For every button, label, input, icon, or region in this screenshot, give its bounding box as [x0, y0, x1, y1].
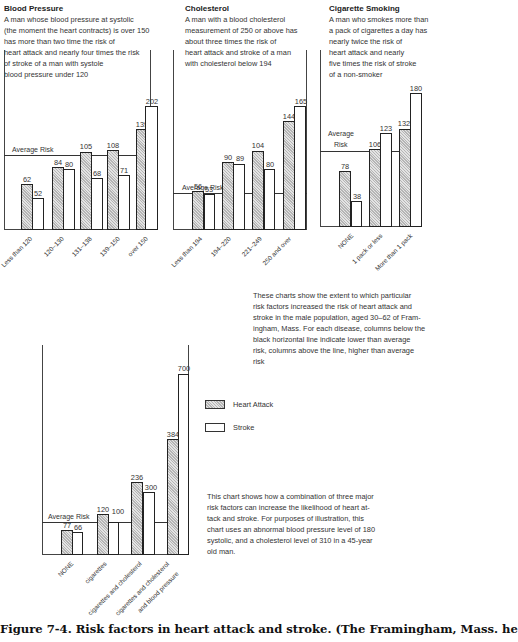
- cig-value: 180: [404, 84, 428, 93]
- note-line: This chart shows how a combination of th…: [207, 491, 435, 502]
- bp-x-label: Less than 120: [0, 235, 33, 268]
- chol-bar-stroke: [204, 194, 215, 230]
- cig-bar-stroke: [351, 201, 362, 227]
- bp-value: 71: [112, 166, 136, 175]
- bp-bar-stroke: [91, 178, 103, 230]
- cig-bar-stroke: [380, 133, 392, 227]
- cig-desc-line: nearly twice the risk of: [329, 36, 435, 47]
- chol-title: Cholesterol: [185, 4, 229, 13]
- cig-value: 78: [333, 162, 357, 171]
- bp-bar-stroke: [32, 198, 44, 230]
- bp-desc-line: has more than two time the risk of: [4, 36, 164, 47]
- chol-desc-line: A man with a blood cholesterol: [185, 14, 310, 25]
- bp-value: 202: [140, 97, 164, 106]
- chol-bar-stroke: [294, 106, 306, 230]
- note-line: old man.: [207, 546, 435, 557]
- combo-bar-stroke: [108, 522, 119, 555]
- chol-bar-stroke: [233, 164, 245, 230]
- combo-x-label: NONE: [56, 560, 74, 578]
- cig-desc-line: A man who smokes more than: [329, 14, 435, 25]
- bp-bar-stroke: [145, 106, 158, 230]
- bp-value: 108: [101, 141, 125, 150]
- chol-desc-line: about three times the risk of: [185, 36, 310, 47]
- combo-value: 700: [172, 364, 196, 373]
- cig-value: 38: [345, 192, 369, 201]
- note-line: chart uses an abnormal blood pressure le…: [207, 524, 435, 535]
- note-line: ingham, Mass. For each disease, columns …: [253, 323, 435, 334]
- legend-swatch-heart-attack: [205, 400, 225, 409]
- chol-bar-stroke: [264, 169, 275, 230]
- chol-desc-line: measurement of 250 or above has: [185, 25, 310, 36]
- bp-bar-stroke: [63, 169, 75, 230]
- combo-value: 100: [106, 507, 130, 516]
- legend-label-heart-attack: Heart Attack: [233, 400, 273, 409]
- chol-value: 80: [258, 160, 282, 169]
- combo-value: 300: [139, 483, 163, 492]
- cig-average-label: Risk: [334, 141, 348, 148]
- chol-value: 89: [228, 154, 252, 163]
- chol-value: 53: [197, 185, 221, 194]
- bp-x-label: 131–138: [70, 235, 93, 258]
- note-line: systolic, and a cholesterol level of 310…: [207, 535, 435, 546]
- bp-bar-stroke: [118, 175, 130, 230]
- overview-note: These charts show the extent to which pa…: [253, 290, 435, 367]
- bp-value: 80: [57, 160, 81, 169]
- chol-x-label: 250 and over: [261, 235, 292, 266]
- combination-note: This chart shows how a combination of th…: [207, 491, 435, 557]
- bp-value: 105: [74, 142, 98, 151]
- legend-swatch-stroke: [205, 423, 225, 432]
- note-line: risk factors can increase the likelihood…: [207, 502, 435, 513]
- chol-x-label: 221–249: [240, 235, 263, 258]
- chol-bar-heart-attack: [192, 191, 204, 230]
- combo-bar-heart-attack: [131, 482, 143, 555]
- bp-x-label: 120–130: [42, 235, 65, 258]
- note-line: risk factors increased the risk of heart…: [253, 301, 435, 312]
- bp-value: 62: [15, 175, 39, 184]
- bp-desc-line: (the moment the heart contracts) is over…: [4, 25, 164, 36]
- figure-caption: Figure 7-4. Risk factors in heart attack…: [0, 622, 518, 636]
- combo-bar-stroke: [72, 532, 83, 555]
- note-line: risk: [253, 356, 435, 367]
- cig-title: Cigarette Smoking: [329, 4, 400, 13]
- combo-x-label: cigarettes: [83, 560, 108, 585]
- note-line: stroke in the male population, aged 30–6…: [253, 312, 435, 323]
- combo-value: 236: [125, 473, 149, 482]
- combo-value: 66: [66, 523, 90, 532]
- note-line: tack and stroke. For purposes of illustr…: [207, 513, 435, 524]
- note-line: risk, columns above the line, higher tha…: [253, 345, 435, 356]
- bp-x-label: over 150: [126, 235, 149, 258]
- chol-value: 104: [246, 141, 270, 150]
- cig-x-label: NONE: [336, 232, 354, 250]
- cig-desc-line: a pack of cigarettes a day has: [329, 25, 435, 36]
- bp-value: 52: [26, 189, 50, 198]
- bp-x-label: 139–150: [98, 235, 121, 258]
- legend-label-stroke: Stroke: [233, 423, 254, 432]
- bp-average-line: [4, 155, 151, 156]
- cig-x-label: 1 pack or less: [350, 232, 383, 265]
- cig-bar-stroke: [410, 93, 422, 227]
- combo-bar-stroke: [178, 374, 189, 555]
- bp-value: 68: [85, 169, 109, 178]
- bp-desc-line: A man whose blood pressure at systolic: [4, 14, 164, 25]
- combo-bar-stroke: [143, 492, 155, 555]
- combo-average-label: Average Risk: [48, 513, 90, 520]
- bp-average-label: Average Risk: [12, 146, 54, 153]
- note-line: black horizontal line indicate lower tha…: [253, 334, 435, 345]
- chol-value: 165: [289, 97, 313, 106]
- cig-average-label: Average: [328, 130, 354, 137]
- chol-x-label: Less than 194: [170, 235, 203, 268]
- chol-x-label: 194–220: [209, 235, 232, 258]
- bp-title: Blood Pressure: [4, 4, 63, 13]
- note-line: These charts show the extent to which pa…: [253, 290, 435, 301]
